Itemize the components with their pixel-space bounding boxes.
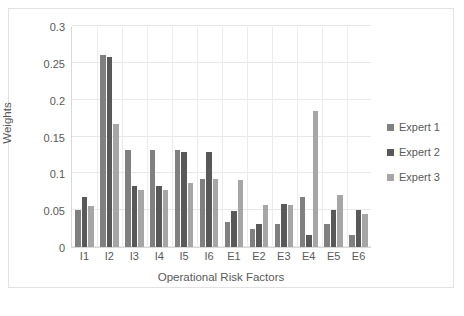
bar <box>256 224 262 247</box>
y-tick-label: 0.3 <box>9 21 65 33</box>
x-tick-label: E5 <box>321 250 346 262</box>
bar <box>337 195 343 247</box>
bar <box>281 204 287 247</box>
bar <box>150 150 156 247</box>
bar <box>356 210 362 247</box>
legend-swatch-icon <box>387 124 394 131</box>
bar <box>82 197 88 247</box>
x-tick-label: E4 <box>296 250 321 262</box>
bar <box>100 55 106 247</box>
bar-group: I5 <box>172 27 197 247</box>
bar <box>213 179 219 248</box>
bar <box>163 190 169 247</box>
bar <box>362 214 368 247</box>
bar-group: I2 <box>97 27 122 247</box>
bar <box>181 152 187 247</box>
x-tick-label: E3 <box>271 250 296 262</box>
legend-item: Expert 1 <box>387 121 440 133</box>
bar <box>206 152 212 247</box>
bar-group: I3 <box>122 27 147 247</box>
gridline <box>72 25 371 26</box>
bar <box>324 224 330 247</box>
bar <box>132 186 138 247</box>
bar-group: E3 <box>271 27 296 247</box>
bar <box>288 205 294 247</box>
bar <box>225 222 231 247</box>
x-tick-label: I2 <box>97 250 122 262</box>
legend-label: Expert 2 <box>399 146 440 158</box>
bar-group: E1 <box>222 27 247 247</box>
bar <box>300 197 306 247</box>
bar <box>88 206 94 247</box>
x-tick-label: E1 <box>222 250 247 262</box>
bar <box>138 190 144 247</box>
legend-swatch-icon <box>387 174 394 181</box>
bar <box>231 211 237 247</box>
legend-label: Expert 3 <box>399 171 440 183</box>
bar <box>306 235 312 247</box>
bar <box>250 229 256 247</box>
bar <box>175 150 181 247</box>
legend-swatch-icon <box>387 149 394 156</box>
y-tick-label: 0.25 <box>9 58 65 70</box>
legend: Expert 1Expert 2Expert 3 <box>387 121 440 183</box>
bar <box>156 186 162 247</box>
x-tick-label: I6 <box>197 250 222 262</box>
x-tick-label: E6 <box>346 250 371 262</box>
bar <box>113 124 119 247</box>
bar-group: E6 <box>346 27 371 247</box>
y-tick-label: 0 <box>9 242 65 254</box>
legend-label: Expert 1 <box>399 121 440 133</box>
bar <box>313 111 319 247</box>
bar-group: E5 <box>321 27 346 247</box>
x-tick-label: I5 <box>172 250 197 262</box>
bar <box>263 205 269 247</box>
bar <box>200 179 206 248</box>
x-tick-label: I1 <box>72 250 97 262</box>
bar <box>349 235 355 247</box>
bar-group: I1 <box>72 27 97 247</box>
bar-group: I6 <box>197 27 222 247</box>
bar-group: E4 <box>296 27 321 247</box>
y-tick-label: 0.15 <box>9 132 65 144</box>
x-axis-title: Operational Risk Factors <box>71 271 371 283</box>
bar <box>125 150 131 247</box>
bar-group: I4 <box>147 27 172 247</box>
y-tick-label: 0.2 <box>9 95 65 107</box>
x-tick-label: E2 <box>246 250 271 262</box>
bar-group: E2 <box>246 27 271 247</box>
bar <box>331 210 337 247</box>
bar <box>188 183 194 247</box>
bar-groups: I1I2I3I4I5I6E1E2E3E4E5E6 <box>72 27 371 247</box>
bar <box>238 180 244 247</box>
x-tick-label: I3 <box>122 250 147 262</box>
bar <box>75 210 81 247</box>
bar <box>275 224 281 247</box>
bar <box>107 57 113 247</box>
y-tick-label: 0.05 <box>9 205 65 217</box>
legend-item: Expert 3 <box>387 171 440 183</box>
y-tick-label: 0.1 <box>9 168 65 180</box>
x-tick-label: I4 <box>147 250 172 262</box>
legend-item: Expert 2 <box>387 146 440 158</box>
chart-figure: Weights I1I2I3I4I5I6E1E2E3E4E5E6 00.050.… <box>8 8 454 288</box>
plot-area: I1I2I3I4I5I6E1E2E3E4E5E6 <box>71 27 371 248</box>
